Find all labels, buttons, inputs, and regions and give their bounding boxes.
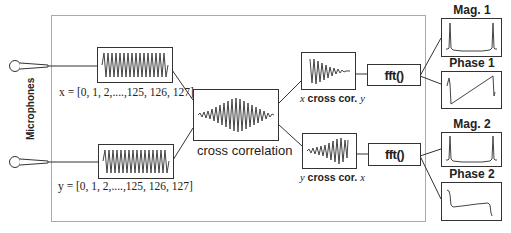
- sine-wave-icon: [99, 145, 173, 178]
- phase1-title: Phase 1: [441, 56, 503, 70]
- ycx-box: [302, 133, 357, 169]
- signal-y-box: [98, 144, 174, 179]
- mag1-title: Mag. 1: [441, 3, 503, 17]
- cross-correlation-box: [193, 89, 279, 141]
- mag1-plot: [441, 18, 502, 57]
- cross-correlation-label: cross correlation: [197, 143, 292, 158]
- xcy-label: x cross cor. y: [300, 92, 365, 104]
- growing-waveform-icon: [303, 134, 356, 168]
- phase2-plot: [441, 182, 502, 221]
- fft-label: fft(): [368, 65, 420, 85]
- phase-spectrum-icon: [442, 72, 501, 108]
- magnitude-spectrum-icon: [442, 19, 501, 56]
- signal-y-label: y = [0, 1, 2,....,125, 126, 127]: [58, 180, 193, 192]
- microphone-icon: [8, 154, 50, 170]
- magnitude-spectrum-icon: [442, 133, 501, 166]
- xcy-box: [301, 52, 356, 90]
- mag2-plot: [441, 132, 502, 167]
- microphones-label: Microphones: [25, 78, 36, 140]
- sine-wave-icon: [98, 48, 172, 82]
- phase-spectrum-icon: [442, 183, 501, 220]
- fft-box-2: fft(): [368, 143, 421, 166]
- signal-x-box: [97, 47, 173, 83]
- signal-processing-diagram: Microphones x = [0, 1, 2,....,125, 126, …: [0, 0, 511, 233]
- fft-label: fft(): [369, 144, 420, 165]
- phase1-plot: [441, 71, 502, 109]
- mag2-title: Mag. 2: [441, 117, 503, 131]
- cross-correlation-waveform-icon: [194, 90, 278, 140]
- fft-box-1: fft(): [367, 64, 421, 86]
- signal-x-label: x = [0, 1, 2,....,125, 126, 127]: [59, 86, 194, 98]
- decaying-waveform-icon: [302, 53, 355, 89]
- ycx-label: y cross cor. x: [300, 171, 365, 183]
- phase2-title: Phase 2: [441, 167, 503, 181]
- microphone-icon: [8, 58, 50, 74]
